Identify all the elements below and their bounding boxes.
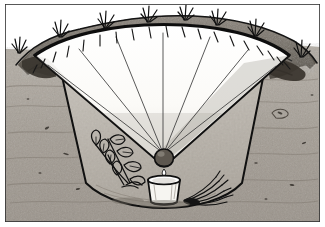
center-weight-stone [155,149,174,167]
drip-droplet [162,169,166,176]
solar-still-drawing [4,3,321,223]
solar-still-figure [4,3,321,223]
illustration-stage [0,0,325,227]
